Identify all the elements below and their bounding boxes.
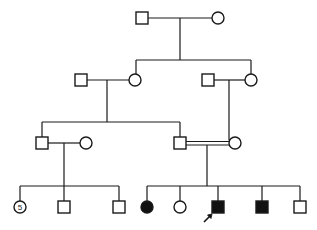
proband-arrow-icon: [204, 214, 212, 222]
male-II-3: [202, 74, 214, 86]
male-III-1: [36, 137, 48, 149]
affected-male-IV-7: [256, 201, 268, 213]
male-IV-3: [113, 201, 125, 213]
descent-line-II-right: [229, 80, 235, 140]
female-II-2: [129, 74, 141, 86]
female-II-4: [245, 74, 257, 86]
female-I-2: [212, 12, 224, 24]
pedigree-diagram: 5: [0, 0, 317, 230]
generation-3: [36, 137, 241, 186]
affected-male-IV-6-proband: [212, 201, 224, 213]
female-III-4: [229, 137, 241, 149]
generation-1: [136, 12, 224, 60]
pedigree-canvas: 5: [0, 0, 317, 230]
generation-4-right: [141, 186, 306, 213]
generation-2: [75, 74, 257, 140]
female-III-2: [80, 137, 92, 149]
male-II-1: [75, 74, 87, 86]
male-III-3: [174, 137, 186, 149]
affected-female-IV-4: [141, 201, 153, 213]
generation-4-left: 5: [14, 186, 125, 213]
multiple-count-label: 5: [18, 203, 23, 212]
male-I-1: [136, 12, 148, 24]
male-IV-8: [294, 201, 306, 213]
female-IV-5: [174, 201, 186, 213]
male-IV-2: [58, 201, 70, 213]
